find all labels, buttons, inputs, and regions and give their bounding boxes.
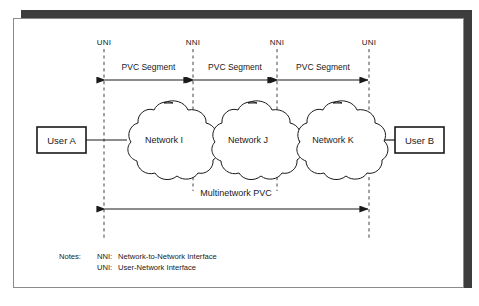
pvc-segment-label-1: PVC Segment <box>122 62 176 72</box>
pvc-segment-label-3: PVC Segment <box>296 62 350 72</box>
user-b-label: User B <box>405 135 434 146</box>
notes-definition-nni: Network-to-Network Interface <box>118 252 217 261</box>
endpoint-user-a[interactable]: User A <box>37 127 86 153</box>
cloud-network-j[interactable]: Network J <box>212 101 303 180</box>
notes-term-nni: NNI: <box>97 252 112 261</box>
multinetwork-pvc-label: Multinetwork PVC <box>200 188 272 198</box>
interface-label-nni-2: NNI <box>270 38 284 47</box>
notes-block: Notes: NNI: Network-to-Network Interface… <box>59 252 217 272</box>
cloud-network-i[interactable]: Network I <box>128 101 219 180</box>
notes-definition-uni: User-Network Interface <box>118 263 196 272</box>
cloud-network-j-label: Network J <box>228 135 268 145</box>
interface-label-uni-left: UNI <box>97 38 111 47</box>
user-a-label: User A <box>47 135 76 146</box>
cloud-network-k-label: Network K <box>312 135 354 145</box>
interface-labels: UNI NNI NNI UNI <box>97 38 376 47</box>
multinetwork-pvc-span: Multinetwork PVC <box>105 188 368 209</box>
diagram-canvas: UNI NNI NNI UNI PVC Segment PVC Segment … <box>14 19 465 289</box>
diagram-panel: UNI NNI NNI UNI PVC Segment PVC Segment … <box>13 18 464 288</box>
cloud-network-i-label: Network I <box>145 135 183 145</box>
cloud-network-k[interactable]: Network K <box>297 101 388 180</box>
endpoint-user-b[interactable]: User B <box>395 127 444 153</box>
figure-root: UNI NNI NNI UNI PVC Segment PVC Segment … <box>0 0 479 306</box>
interface-label-uni-right: UNI <box>362 38 376 47</box>
notes-heading: Notes: <box>59 252 81 261</box>
pvc-segment-label-2: PVC Segment <box>208 62 262 72</box>
pvc-segment-labels: PVC Segment PVC Segment PVC Segment <box>122 62 351 72</box>
notes-term-uni: UNI: <box>97 263 112 272</box>
interface-label-nni-1: NNI <box>186 38 200 47</box>
